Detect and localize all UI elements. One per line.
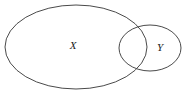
venn-diagram-figure: X Y [0,0,190,95]
set-x-label: X [69,39,78,51]
venn-diagram-canvas: X Y [0,0,190,95]
